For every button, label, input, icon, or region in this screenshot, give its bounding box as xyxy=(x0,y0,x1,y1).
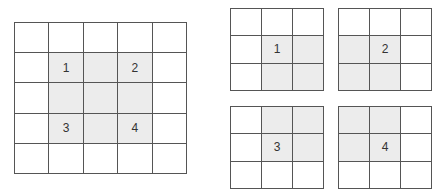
g2-cell-r2c2 xyxy=(401,64,432,91)
g1-cell-r0c2 xyxy=(293,9,324,36)
g3-cell-r1c0 xyxy=(231,134,262,161)
big-cell-r4c1 xyxy=(49,144,83,174)
g4-cell-r0c1 xyxy=(370,107,401,134)
g2-cell-r1c2 xyxy=(401,36,432,63)
big-cell-r3c3: 4 xyxy=(118,114,152,144)
g4-cell-r1c1: 4 xyxy=(370,134,401,161)
g4-cell-r1c0 xyxy=(339,134,370,161)
big-cell-r1c3: 2 xyxy=(118,53,152,83)
big-cell-r3c1: 3 xyxy=(49,114,83,144)
g4-cell-r2c0 xyxy=(339,162,370,189)
g3-cell-r0c2 xyxy=(293,107,324,134)
big-cell-r2c0 xyxy=(15,83,49,113)
large-grid-5x5: 1234 xyxy=(14,22,187,174)
g1-cell-r2c2 xyxy=(293,64,324,91)
g3-cell-r1c2 xyxy=(293,134,324,161)
small-grid-1: 1 xyxy=(230,8,324,91)
cell-label: 4 xyxy=(132,121,139,135)
cell-label: 2 xyxy=(132,61,139,75)
g2-cell-r0c0 xyxy=(339,9,370,36)
big-cell-r0c0 xyxy=(15,23,49,53)
big-cell-r0c3 xyxy=(118,23,152,53)
big-cell-r1c1: 1 xyxy=(49,53,83,83)
g4-cell-r1c2 xyxy=(401,134,432,161)
big-cell-r4c2 xyxy=(84,144,118,174)
small-grid-4: 4 xyxy=(338,106,432,189)
big-cell-r3c0 xyxy=(15,114,49,144)
g4-cell-r2c1 xyxy=(370,162,401,189)
g1-cell-r1c2 xyxy=(293,36,324,63)
g2-cell-r0c1 xyxy=(370,9,401,36)
g1-cell-r0c1 xyxy=(262,9,293,36)
big-cell-r4c4 xyxy=(153,144,187,174)
cell-label: 4 xyxy=(382,140,389,154)
g2-cell-r1c0 xyxy=(339,36,370,63)
g3-cell-r0c0 xyxy=(231,107,262,134)
g1-cell-r1c0 xyxy=(231,36,262,63)
big-cell-r0c1 xyxy=(49,23,83,53)
g4-cell-r2c2 xyxy=(401,162,432,189)
big-cell-r1c2 xyxy=(84,53,118,83)
g3-cell-r2c0 xyxy=(231,162,262,189)
g4-cell-r0c0 xyxy=(339,107,370,134)
big-cell-r2c3 xyxy=(118,83,152,113)
big-cell-r4c0 xyxy=(15,144,49,174)
g2-cell-r1c1: 2 xyxy=(370,36,401,63)
big-cell-r2c2 xyxy=(84,83,118,113)
cell-label: 2 xyxy=(382,42,389,56)
big-cell-r1c0 xyxy=(15,53,49,83)
g1-cell-r2c0 xyxy=(231,64,262,91)
small-grid-3: 3 xyxy=(230,106,324,189)
small-grid-2: 2 xyxy=(338,8,432,91)
g3-cell-r0c1 xyxy=(262,107,293,134)
g1-cell-r1c1: 1 xyxy=(262,36,293,63)
g3-cell-r1c1: 3 xyxy=(262,134,293,161)
g3-cell-r2c1 xyxy=(262,162,293,189)
g4-cell-r0c2 xyxy=(401,107,432,134)
g3-cell-r2c2 xyxy=(293,162,324,189)
cell-label: 1 xyxy=(274,42,281,56)
big-cell-r0c2 xyxy=(84,23,118,53)
big-cell-r2c1 xyxy=(49,83,83,113)
big-cell-r3c4 xyxy=(153,114,187,144)
big-cell-r0c4 xyxy=(153,23,187,53)
big-cell-r4c3 xyxy=(118,144,152,174)
g2-cell-r2c0 xyxy=(339,64,370,91)
g2-cell-r0c2 xyxy=(401,9,432,36)
g2-cell-r2c1 xyxy=(370,64,401,91)
g1-cell-r0c0 xyxy=(231,9,262,36)
big-cell-r2c4 xyxy=(153,83,187,113)
big-cell-r3c2 xyxy=(84,114,118,144)
g1-cell-r2c1 xyxy=(262,64,293,91)
cell-label: 1 xyxy=(63,61,70,75)
cell-label: 3 xyxy=(63,121,70,135)
big-cell-r1c4 xyxy=(153,53,187,83)
cell-label: 3 xyxy=(274,140,281,154)
